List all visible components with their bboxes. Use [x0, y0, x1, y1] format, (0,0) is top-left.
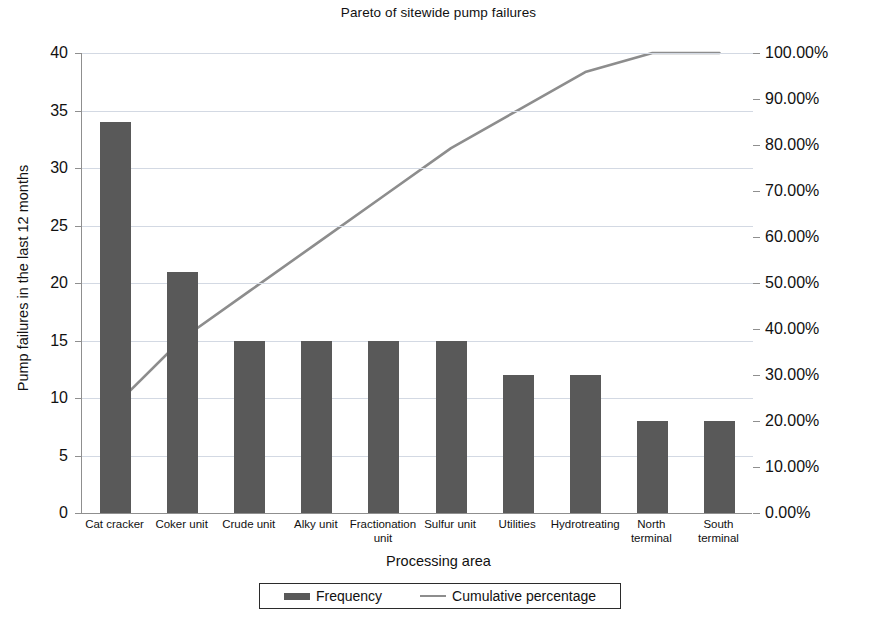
right-axis-tick — [753, 421, 760, 422]
category-label: Sulfur unit — [417, 518, 484, 532]
right-axis-tick-label: 30.00% — [765, 366, 875, 384]
category-label: Coker unit — [148, 518, 215, 532]
right-axis-tick — [753, 145, 760, 146]
gridline — [82, 226, 753, 227]
legend-label-cumulative-percentage: Cumulative percentage — [452, 588, 596, 604]
right-axis-tick — [753, 329, 760, 330]
pareto-chart: Pareto of sitewide pump failures Pump fa… — [0, 0, 877, 630]
right-axis-tick — [753, 237, 760, 238]
category-label: Hydrotreating — [551, 518, 618, 532]
left-axis-tick-label: 20 — [8, 274, 68, 292]
left-axis-tick — [75, 283, 82, 284]
left-axis-tick — [75, 456, 82, 457]
right-axis-tick-label: 0.00% — [765, 504, 875, 522]
left-axis-tick — [75, 168, 82, 169]
bar[interactable] — [100, 122, 131, 513]
plot-area — [81, 53, 752, 513]
bar[interactable] — [167, 272, 198, 514]
gridline — [82, 168, 753, 169]
legend-item-frequency[interactable]: Frequency — [284, 588, 382, 604]
bar[interactable] — [503, 375, 534, 513]
right-axis-tick-label: 70.00% — [765, 182, 875, 200]
gridline — [82, 111, 753, 112]
line-swatch-icon — [420, 595, 446, 597]
bar[interactable] — [234, 341, 265, 514]
right-axis-tick-label: 20.00% — [765, 412, 875, 430]
left-axis-tick-label: 15 — [8, 332, 68, 350]
category-label: Cat cracker — [81, 518, 148, 532]
left-axis-tick-label: 40 — [8, 44, 68, 62]
legend: Frequency Cumulative percentage — [259, 583, 621, 609]
legend-item-cumulative-percentage[interactable]: Cumulative percentage — [420, 588, 596, 604]
right-axis-tick — [753, 513, 760, 514]
left-axis-tick-label: 5 — [8, 447, 68, 465]
right-axis-tick — [753, 467, 760, 468]
category-label: South terminal — [685, 518, 752, 545]
gridline — [82, 53, 753, 54]
left-axis-tick-label: 30 — [8, 159, 68, 177]
category-label: Utilities — [484, 518, 551, 532]
left-axis-tick — [75, 111, 82, 112]
right-axis-tick-label: 10.00% — [765, 458, 875, 476]
right-axis-tick — [753, 53, 760, 54]
category-label: Alky unit — [282, 518, 349, 532]
x-axis-line — [81, 513, 752, 514]
bar[interactable] — [570, 375, 601, 513]
category-label: North terminal — [618, 518, 685, 545]
right-axis-tick — [753, 375, 760, 376]
bar[interactable] — [637, 421, 668, 513]
bar[interactable] — [436, 341, 467, 514]
left-axis-tick-label: 25 — [8, 217, 68, 235]
bar[interactable] — [368, 341, 399, 514]
left-axis-tick — [75, 341, 82, 342]
chart-title: Pareto of sitewide pump failures — [0, 5, 877, 20]
category-label: Fractionation unit — [349, 518, 416, 545]
category-label: Crude unit — [215, 518, 282, 532]
left-axis-tick-label: 0 — [8, 504, 68, 522]
right-axis-tick-label: 60.00% — [765, 228, 875, 246]
left-axis-tick — [75, 398, 82, 399]
right-axis-tick-label: 50.00% — [765, 274, 875, 292]
bar[interactable] — [301, 341, 332, 514]
x-axis-title: Processing area — [0, 553, 877, 569]
left-axis-tick — [75, 53, 82, 54]
right-axis-tick — [753, 191, 760, 192]
right-axis-tick — [753, 99, 760, 100]
legend-label-frequency: Frequency — [316, 588, 382, 604]
left-axis-tick-label: 35 — [8, 102, 68, 120]
right-axis-tick-label: 40.00% — [765, 320, 875, 338]
left-axis-tick — [75, 226, 82, 227]
right-axis-tick-label: 90.00% — [765, 90, 875, 108]
bar[interactable] — [704, 421, 735, 513]
bar-swatch-icon — [284, 593, 310, 600]
right-axis-tick — [753, 283, 760, 284]
left-axis-tick — [75, 513, 82, 514]
right-axis-tick-label: 100.00% — [765, 44, 875, 62]
left-axis-tick-label: 10 — [8, 389, 68, 407]
cumulative-line-path — [116, 53, 720, 405]
right-axis-tick-label: 80.00% — [765, 136, 875, 154]
